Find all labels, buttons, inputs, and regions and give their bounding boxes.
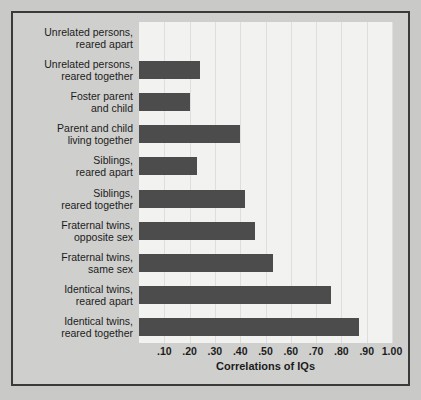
category-label-line: reared together xyxy=(13,199,133,211)
gridline xyxy=(341,22,342,343)
category-label: Unrelated persons,reared apart xyxy=(13,26,133,50)
category-label-line: Fraternal twins, xyxy=(13,251,133,263)
x-tick-label: .30 xyxy=(208,345,223,357)
category-label-line: Parent and child xyxy=(13,122,133,134)
category-label: Siblings,reared apart xyxy=(13,154,133,178)
category-label-line: and child xyxy=(13,102,133,114)
category-label: Fraternal twins,same sex xyxy=(13,251,133,275)
category-label: Identical twins,reared together xyxy=(13,315,133,339)
category-label-line: reared apart xyxy=(13,295,133,307)
bar xyxy=(139,318,359,336)
gridline xyxy=(367,22,368,343)
category-label-line: Unrelated persons, xyxy=(13,26,133,38)
category-label-line: reared together xyxy=(13,327,133,339)
category-label-line: Identical twins, xyxy=(13,283,133,295)
category-label-line: Siblings, xyxy=(13,154,133,166)
category-label: Identical twins,reared apart xyxy=(13,283,133,307)
x-axis-tick-labels: .10.20.30.40.50.60.70.80.901.00 xyxy=(139,345,392,361)
x-tick-label: .60 xyxy=(283,345,298,357)
category-label-line: opposite sex xyxy=(13,231,133,243)
category-label-line: living together xyxy=(13,134,133,146)
bar xyxy=(139,157,197,175)
bar xyxy=(139,254,273,272)
category-label-line: reared apart xyxy=(13,166,133,178)
x-tick-label: .20 xyxy=(182,345,197,357)
bar xyxy=(139,286,331,304)
x-tick-label: .40 xyxy=(233,345,248,357)
category-label: Siblings,reared together xyxy=(13,187,133,211)
category-label: Parent and childliving together xyxy=(13,122,133,146)
bar xyxy=(139,222,255,240)
bar xyxy=(139,93,190,111)
x-tick-label: .90 xyxy=(359,345,374,357)
category-label-line: Identical twins, xyxy=(13,315,133,327)
x-axis-title: Correlations of IQs xyxy=(139,360,392,372)
category-label: Unrelated persons,reared together xyxy=(13,58,133,82)
chart-frame: Unrelated persons,reared apartUnrelated … xyxy=(11,11,410,386)
x-tick-label: .70 xyxy=(309,345,324,357)
category-label: Fraternal twins,opposite sex xyxy=(13,219,133,243)
category-label-line: Unrelated persons, xyxy=(13,58,133,70)
x-tick-label: 1.00 xyxy=(382,345,402,357)
category-label-line: Fraternal twins, xyxy=(13,219,133,231)
x-tick-label: .10 xyxy=(157,345,172,357)
category-label-line: same sex xyxy=(13,263,133,275)
x-tick-label: .50 xyxy=(258,345,273,357)
category-label-line: reared apart xyxy=(13,38,133,50)
category-label-line: reared together xyxy=(13,70,133,82)
category-label-line: Siblings, xyxy=(13,187,133,199)
bar xyxy=(139,125,240,143)
correlations-of-iqs-bar-chart: Unrelated persons,reared apartUnrelated … xyxy=(13,13,412,388)
category-label: Foster parentand child xyxy=(13,90,133,114)
x-tick-label: .80 xyxy=(334,345,349,357)
bar xyxy=(139,190,245,208)
category-label-line: Foster parent xyxy=(13,90,133,102)
figure: Unrelated persons,reared apartUnrelated … xyxy=(0,0,421,400)
gridline xyxy=(392,22,393,343)
bar xyxy=(139,61,200,79)
